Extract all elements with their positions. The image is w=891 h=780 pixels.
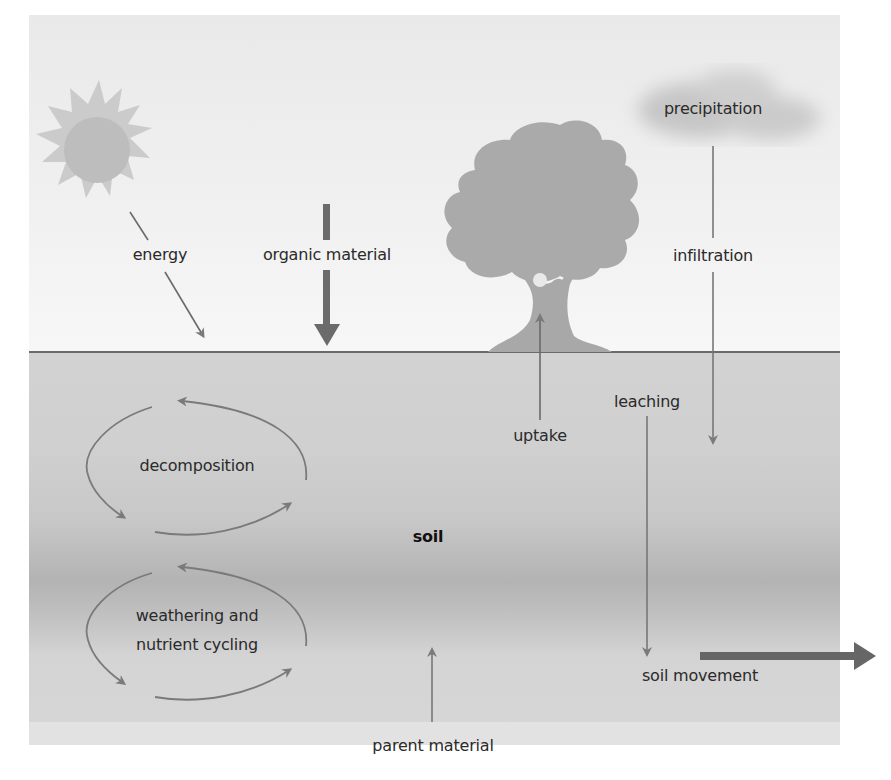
energy-arrow (130, 212, 148, 240)
label-precipitation: precipitation (664, 99, 762, 118)
sun-icon (36, 80, 152, 198)
label-uptake: uptake (513, 426, 567, 445)
label-infiltration: infiltration (673, 246, 753, 265)
label-soil-movement: soil movement (642, 666, 758, 685)
label-soil: soil (413, 527, 444, 546)
label-energy: energy (133, 245, 188, 264)
tree-icon (444, 120, 639, 352)
label-weathering-line1: weathering and (136, 606, 259, 625)
label-organic-material: organic material (263, 245, 391, 264)
label-parent-material: parent material (372, 736, 493, 755)
organic-material-arrow (314, 204, 340, 346)
label-decomposition: decomposition (140, 456, 255, 475)
weathering-cycle-arrows (87, 567, 307, 700)
label-weathering-line2: nutrient cycling (136, 635, 258, 654)
soil-formation-diagram: energy organic material precipitation in… (0, 0, 891, 780)
label-leaching: leaching (614, 392, 680, 411)
